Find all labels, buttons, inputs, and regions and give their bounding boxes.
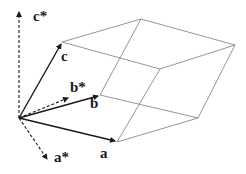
label-c-star: c* <box>33 9 47 24</box>
label-a: a <box>100 146 108 161</box>
vector-b <box>19 96 98 118</box>
label-c: c <box>61 49 68 64</box>
parallelepiped-edges <box>62 19 235 142</box>
reciprocal-lattice-vectors <box>19 12 68 159</box>
label-a-star: a* <box>54 150 69 165</box>
label-b: b <box>90 96 98 111</box>
label-b-star: b* <box>70 80 86 95</box>
unit-cell-diagram <box>0 0 246 174</box>
vector-b-star <box>19 98 68 118</box>
vector-c <box>19 44 61 118</box>
vector-a <box>19 118 115 141</box>
